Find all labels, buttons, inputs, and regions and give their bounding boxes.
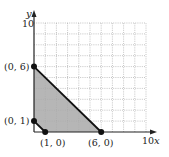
vertex-point (98, 129, 104, 135)
x-axis-label: x (154, 135, 160, 146)
vertex-point (31, 64, 37, 70)
x-max-tick-label: 10 (142, 135, 154, 146)
point-label-0-1: (0, 1) (4, 115, 30, 126)
vertex-point (31, 118, 37, 124)
point-label-6-0: (6, 0) (88, 137, 114, 148)
x-axis-arrow-icon (150, 130, 157, 135)
point-label-1-0: (1, 0) (40, 137, 66, 148)
feasible-region-chart: y 10 (0, 6) (0, 1) (1, 0) (6, 0) 10 x (0, 0, 169, 157)
y-axis-arrow-icon (32, 10, 37, 17)
point-label-0-6: (0, 6) (4, 61, 30, 72)
y-max-tick-label: 10 (22, 18, 34, 29)
vertex-point (42, 129, 48, 135)
